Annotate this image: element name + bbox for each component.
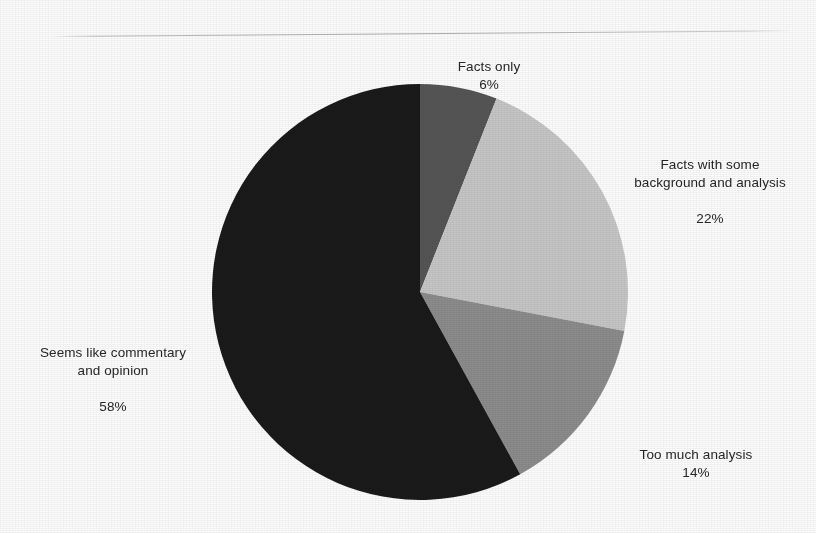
pie-label-facts-background-text-line1: Facts with some bbox=[660, 157, 759, 172]
pie-label-commentary-text-line2: and opinion bbox=[8, 362, 218, 380]
pie-label-commentary: Seems like commentary and opinion 58% bbox=[8, 326, 218, 434]
pie-label-facts-background-text-line2: background and analysis bbox=[606, 174, 814, 192]
pie-label-commentary-value: 58% bbox=[8, 398, 218, 416]
pie-label-too-much-analysis-text: Too much analysis bbox=[640, 447, 753, 462]
pie-label-facts-background: Facts with some background and analysis … bbox=[606, 138, 814, 246]
pie-chart-figure: Facts only 6% Facts with some background… bbox=[0, 0, 816, 533]
pie-label-facts-only: Facts only 6% bbox=[404, 40, 574, 112]
pie-label-commentary-text-line1: Seems like commentary bbox=[40, 345, 186, 360]
pie-label-facts-only-value: 6% bbox=[404, 76, 574, 94]
pie-label-facts-only-text: Facts only bbox=[458, 59, 521, 74]
pie-label-too-much-analysis: Too much analysis 14% bbox=[596, 428, 796, 500]
pie-chart-area: Facts only 6% Facts with some background… bbox=[0, 0, 816, 533]
pie-slices bbox=[212, 84, 628, 500]
pie-label-facts-background-value: 22% bbox=[606, 210, 814, 228]
pie-label-too-much-analysis-value: 14% bbox=[596, 464, 796, 482]
